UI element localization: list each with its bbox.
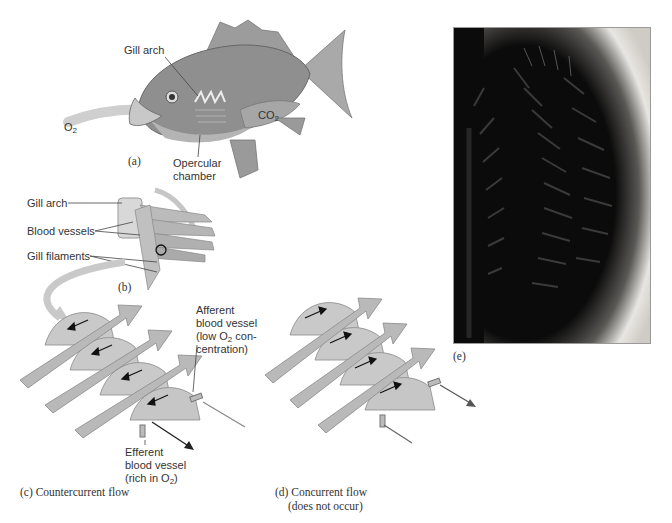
gill-photo-render (454, 28, 651, 344)
caption-e: (e) (453, 349, 466, 363)
gill-photograph (453, 27, 651, 344)
caption-d-line1: (d) Concurrent flow (275, 485, 367, 499)
caption-d-line2: (does not occur) (288, 499, 363, 513)
